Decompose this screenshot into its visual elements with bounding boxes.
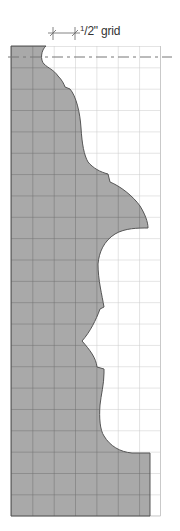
molding-profile-diagram: 1/2" grid [0,0,180,531]
scale-dimension-marker [48,27,80,40]
profile-svg [0,0,180,531]
scale-label: 1/2" grid [80,24,120,38]
scale-label-text: /2" grid [84,24,120,38]
